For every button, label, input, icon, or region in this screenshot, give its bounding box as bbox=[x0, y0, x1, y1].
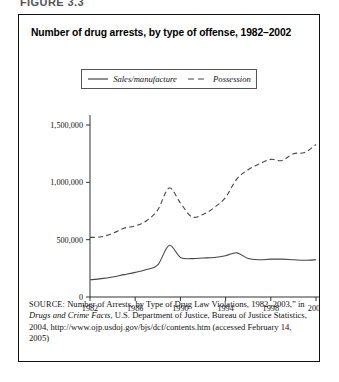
svg-text:1,000,000: 1,000,000 bbox=[50, 178, 83, 187]
line-chart-svg: 0500,0001,000,0001,500,00019821986199019… bbox=[19, 89, 319, 319]
series-line-possession bbox=[90, 144, 316, 237]
dashed-line-swatch-icon bbox=[187, 76, 209, 82]
series-line-sales bbox=[90, 245, 316, 279]
svg-text:1,500,000: 1,500,000 bbox=[50, 121, 83, 130]
legend-item-possession: Possession bbox=[187, 74, 251, 84]
legend-label-possession: Possession bbox=[213, 74, 251, 84]
solid-line-swatch-icon bbox=[87, 76, 109, 82]
legend-label-sales: Sales/manufacture bbox=[113, 74, 177, 84]
source-publication-title: Drugs and Crime Facts bbox=[29, 310, 110, 320]
legend-item-sales: Sales/manufacture bbox=[87, 74, 177, 84]
figure-number-label: FIGURE 3.3 bbox=[20, 0, 84, 8]
chart-plot-area: 0500,0001,000,0001,500,00019821986199019… bbox=[19, 89, 319, 319]
chart-legend: Sales/manufacture Possession bbox=[81, 69, 257, 89]
source-note: SOURCE: Number of Arrests, by Type of Dr… bbox=[29, 299, 311, 345]
source-prefix: SOURCE: bbox=[29, 300, 65, 309]
figure-title: Number of drug arrests, by type of offen… bbox=[31, 27, 309, 38]
source-text-part1: Number of Arrests, by Type of Drug Law V… bbox=[65, 299, 305, 309]
figure-container: Number of drug arrests, by type of offen… bbox=[18, 14, 320, 362]
svg-text:500,000: 500,000 bbox=[56, 236, 83, 245]
